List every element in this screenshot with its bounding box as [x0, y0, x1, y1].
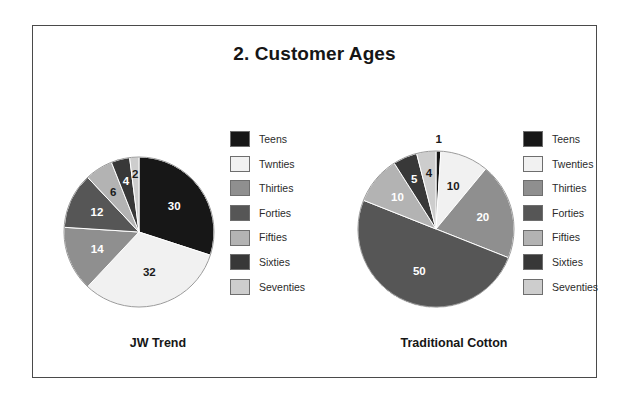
legend-item-label: Twnties — [259, 159, 295, 170]
pie-slice-label: 4 — [426, 167, 433, 179]
legend-item-label: Thirties — [259, 183, 293, 194]
pie-slice-label: 30 — [168, 200, 181, 212]
category-label-jw-trend: JW Trend — [33, 336, 283, 350]
chart-panel-traditional-cotton: 11020501054 Traditional Cotton TeensTwen… — [315, 26, 598, 377]
legend-item: Seventies — [523, 275, 598, 300]
legend-item-label: Sixties — [259, 257, 290, 268]
legend-swatch-icon — [523, 131, 543, 147]
legend-swatch-icon — [523, 230, 543, 246]
legend-item: Thirties — [523, 176, 598, 201]
pie-slice-label: 10 — [391, 191, 404, 203]
pie-slice-label: 32 — [143, 266, 156, 278]
legend-item: Sixties — [523, 250, 598, 275]
legend-item-label: Teens — [259, 134, 287, 145]
legend-item: Twenties — [523, 152, 598, 177]
legend-item: Fifties — [230, 225, 305, 250]
category-label-traditional-cotton: Traditional Cotton — [329, 336, 579, 350]
legend-item-label: Seventies — [259, 282, 305, 293]
legend-swatch-icon — [523, 156, 543, 172]
legend-item: Twnties — [230, 152, 305, 177]
figure-frame: 2. Customer Ages 30321412642 JW Trend Te… — [32, 25, 597, 378]
legend-item-label: Forties — [552, 208, 584, 219]
legend-traditional-cotton: TeensTwentiesThirtiesFortiesFiftiesSixti… — [523, 127, 598, 299]
pie-slice-label: 1 — [436, 133, 443, 145]
legend-item-label: Sixties — [552, 257, 583, 268]
pie-slice-label: 6 — [110, 186, 116, 198]
legend-item: Teens — [230, 127, 305, 152]
legend-swatch-icon — [230, 205, 250, 221]
legend-item-label: Fifties — [552, 232, 580, 243]
legend-item-label: Thirties — [552, 183, 586, 194]
pie-chart-traditional-cotton: 11020501054 — [356, 149, 516, 309]
legend-swatch-icon — [230, 180, 250, 196]
pie-slice-label: 4 — [123, 175, 130, 187]
legend-jw-trend: TeensTwntiesThirtiesFortiesFiftiesSixtie… — [230, 127, 305, 299]
pie-chart-jw-trend: 30321412642 — [61, 154, 217, 310]
pie-slice-label: 5 — [411, 173, 418, 185]
legend-item: Sixties — [230, 250, 305, 275]
legend-swatch-icon — [230, 156, 250, 172]
pie-slice-label: 14 — [91, 243, 104, 255]
legend-swatch-icon — [523, 180, 543, 196]
pie-svg-jw-trend: 30321412642 — [61, 154, 217, 310]
legend-swatch-icon — [523, 279, 543, 295]
legend-item-label: Forties — [259, 208, 291, 219]
legend-swatch-icon — [230, 279, 250, 295]
legend-swatch-icon — [230, 230, 250, 246]
pie-slice-label: 50 — [413, 265, 426, 277]
legend-item: Thirties — [230, 176, 305, 201]
legend-item-label: Teens — [552, 134, 580, 145]
legend-item-label: Twenties — [552, 159, 593, 170]
pie-slice-label: 20 — [476, 211, 489, 223]
legend-swatch-icon — [523, 205, 543, 221]
legend-swatch-icon — [230, 131, 250, 147]
pie-svg-traditional-cotton: 11020501054 — [356, 149, 516, 309]
legend-item: Teens — [523, 127, 598, 152]
pie-slice-label: 12 — [91, 206, 104, 218]
legend-swatch-icon — [230, 254, 250, 270]
legend-swatch-icon — [523, 254, 543, 270]
legend-item: Forties — [230, 201, 305, 226]
legend-item-label: Seventies — [552, 282, 598, 293]
pie-slice-label: 2 — [132, 168, 138, 180]
pie-slice-label: 10 — [447, 180, 460, 192]
legend-item-label: Fifties — [259, 232, 287, 243]
chart-panel-jw-trend: 30321412642 JW Trend TeensTwntiesThirtie… — [33, 26, 315, 377]
legend-item: Forties — [523, 201, 598, 226]
legend-item: Fifties — [523, 225, 598, 250]
legend-item: Seventies — [230, 275, 305, 300]
